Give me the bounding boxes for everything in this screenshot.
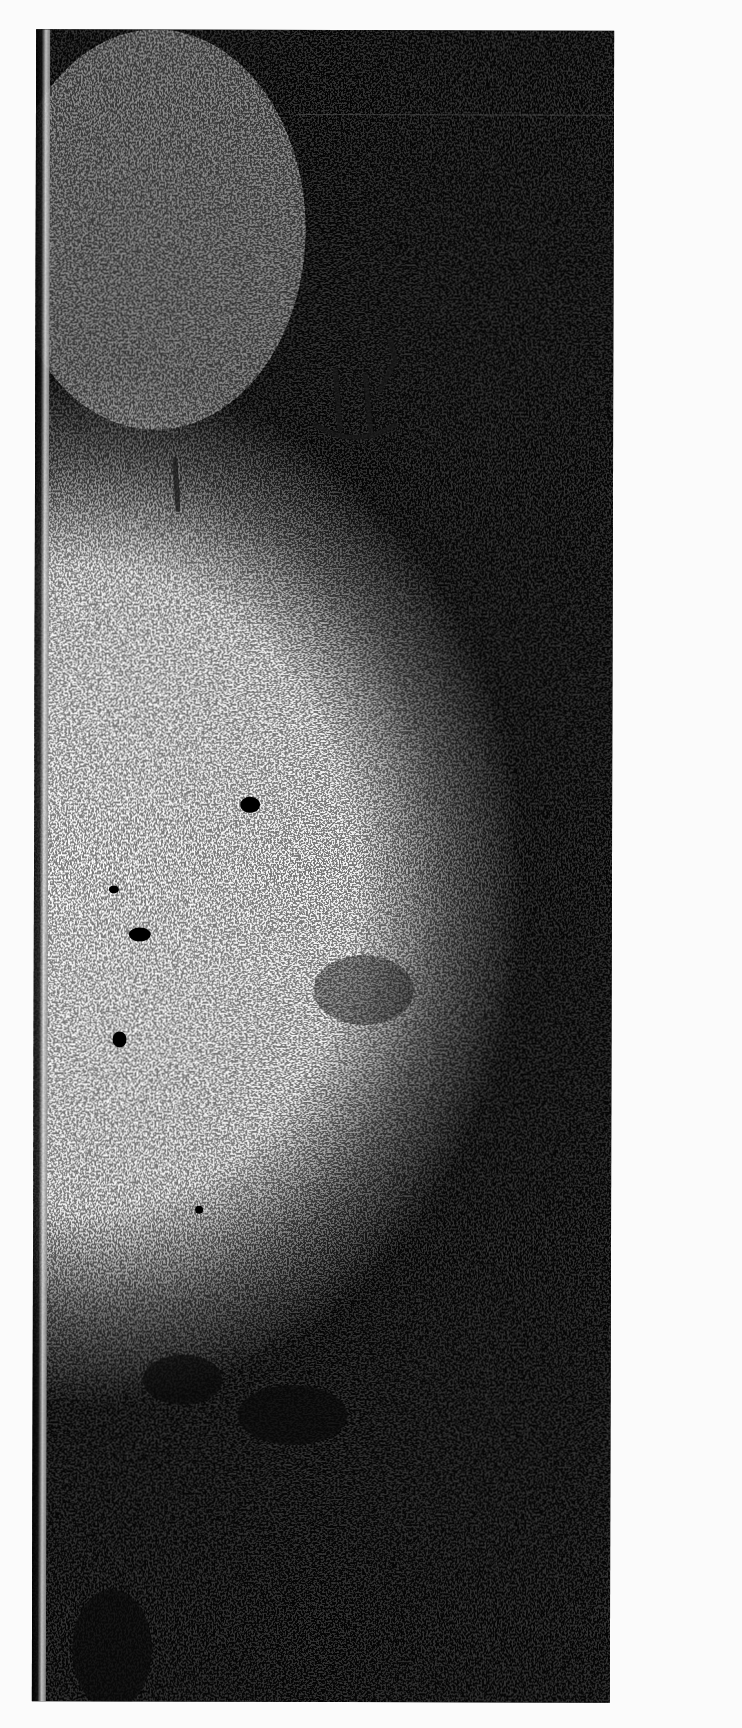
page-background — [0, 0, 742, 1728]
speckle-texture — [32, 29, 614, 1703]
stone-surface-photo — [32, 29, 614, 1703]
